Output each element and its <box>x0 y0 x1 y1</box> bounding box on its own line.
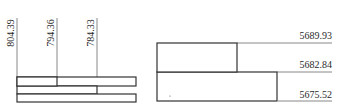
left-bar-base <box>17 94 136 102</box>
left-level-label-1: 804.39 <box>5 19 16 47</box>
left-bar-top <box>17 77 57 86</box>
left-diagram: 804.39 794.36 784.33 <box>5 18 136 102</box>
right-box-upper <box>157 43 237 72</box>
left-level-label-3: 784.33 <box>85 19 96 47</box>
right-level-label-1: 5689.93 <box>300 30 333 41</box>
diagram-canvas: 804.39 794.36 784.33 5689.93 5682.84 567… <box>0 0 339 112</box>
right-level-label-2: 5682.84 <box>300 59 333 70</box>
marker-dot <box>169 95 170 96</box>
left-level-label-2: 794.36 <box>45 19 56 47</box>
right-level-label-3: 5675.52 <box>300 89 333 100</box>
left-bar-middle <box>17 86 97 94</box>
right-diagram: 5689.93 5682.84 5675.52 <box>157 30 332 101</box>
right-box-lower <box>157 72 277 101</box>
